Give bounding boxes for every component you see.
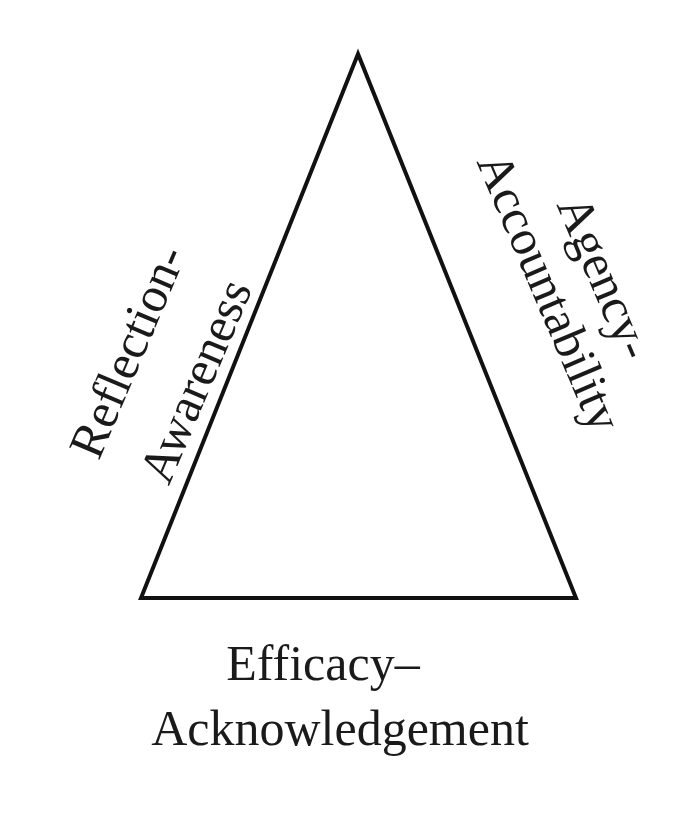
bottom-label-line1: Efficacy– [0,638,666,688]
bottom-label-line2: Acknowledgement [0,703,683,753]
